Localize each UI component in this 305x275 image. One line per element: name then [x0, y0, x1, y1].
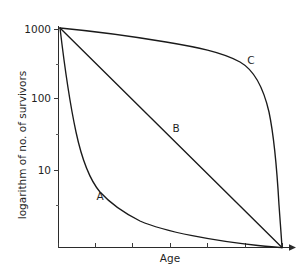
x-axis-arrow-icon	[289, 244, 296, 251]
curve-label-b: B	[172, 122, 179, 134]
y-tick-label-1000: 1000	[24, 23, 51, 35]
y-axis-ticks	[54, 29, 59, 205]
curve-annotations: A B C	[96, 54, 254, 202]
y-tick-labels: 1000 100 10	[24, 23, 51, 176]
curve-label-a: A	[96, 190, 104, 202]
y-tick-label-10: 10	[38, 164, 51, 176]
axes-group	[59, 26, 297, 251]
x-axis-title: Age	[160, 252, 180, 264]
y-axis-title: logarithm of no. of survivors	[16, 71, 28, 220]
curve-label-c: C	[247, 54, 254, 66]
survivorship-curve-figure: 1000 100 10 logarithm of no. of survivor…	[0, 0, 305, 275]
chart-canvas: 1000 100 10 logarithm of no. of survivor…	[0, 0, 305, 275]
y-tick-label-100: 100	[31, 92, 51, 104]
